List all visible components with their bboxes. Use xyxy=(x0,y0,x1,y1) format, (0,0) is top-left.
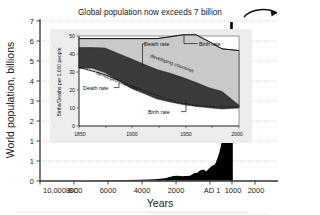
inset-y-tick-30: 30 xyxy=(69,69,75,75)
inset-y-tick-0: 0 xyxy=(72,123,75,129)
y-tick-labels: 7 6 5 4 3 2 1 1 0 xyxy=(30,17,34,186)
y-axis-title: World population, billions xyxy=(4,42,16,159)
x-tick-6000: 6000 xyxy=(100,186,117,195)
x-tick-1000: 1000 xyxy=(225,186,242,195)
inset-label-birth-rate-top: Birth rate xyxy=(199,41,221,47)
chart-title: Global population now exceeds 7 billion xyxy=(78,8,222,17)
y-tick-0b: 1 xyxy=(30,157,34,166)
inset-y-tick-50: 50 xyxy=(69,33,75,39)
y-tick-5: 5 xyxy=(30,57,34,66)
y-tick-2: 2 xyxy=(30,117,34,126)
inset-x-tick-1850: 1850 xyxy=(74,131,86,137)
inset-panel: 50 40 30 20 10 0 1850 1900 1950 2000 Bir… xyxy=(50,29,252,143)
x-tick-2000ad: 2000 xyxy=(248,186,265,195)
population-chart: 7 6 5 4 3 2 1 1 0 10,000 BC 8000 6000 40… xyxy=(0,0,320,215)
x-tick-4000: 4000 xyxy=(134,186,151,195)
x-tick-2000bc: 2000 xyxy=(168,186,185,195)
inset-y-tick-10: 10 xyxy=(69,105,75,111)
inset-x-tick-1900: 1900 xyxy=(126,131,138,137)
x-axis-title: Years xyxy=(147,197,173,209)
inset-y-axis-title: Births/Deaths per 1,000 people xyxy=(56,47,62,116)
x-tick-8000: 8000 xyxy=(66,186,83,195)
inset-label-birth-rate-bottom: Birth rate xyxy=(148,109,170,115)
y-tick-7: 7 xyxy=(30,17,34,26)
y-tick-3: 3 xyxy=(30,97,34,106)
y-tick-4: 4 xyxy=(30,77,34,86)
inset-label-death-rate-top: Death rate xyxy=(144,41,169,47)
y-tick-6: 6 xyxy=(30,37,34,46)
x-tick-ad1: AD 1 xyxy=(204,186,221,195)
y-tick-1: 1 xyxy=(30,137,34,146)
inset-label-death-rate-left: Death rate xyxy=(83,85,108,91)
figure-root: 7 6 5 4 3 2 1 1 0 10,000 BC 8000 6000 40… xyxy=(0,0,320,215)
inset-x-tick-1950: 1950 xyxy=(180,131,192,137)
inset-x-tick-2000: 2000 xyxy=(231,131,243,137)
inset-y-tick-20: 20 xyxy=(69,87,75,93)
y-tick-0: 0 xyxy=(30,177,34,186)
inset-y-tick-40: 40 xyxy=(69,51,75,57)
